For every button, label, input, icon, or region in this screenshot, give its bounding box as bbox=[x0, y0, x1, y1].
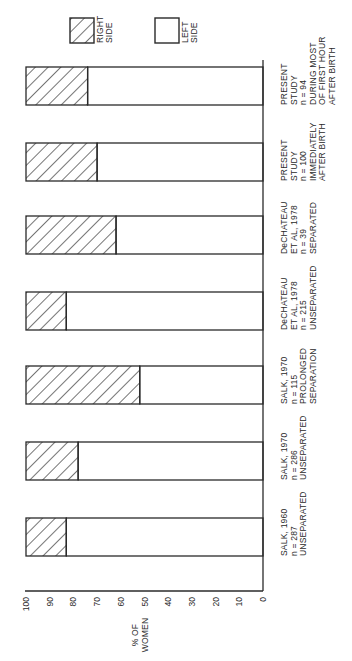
tick-label: 80 bbox=[68, 597, 78, 607]
category-label: SALK, 1960n = 287UNSEPARATED bbox=[279, 491, 308, 556]
bar bbox=[26, 67, 263, 105]
category-label-line: ET AL, 1978 bbox=[289, 281, 299, 330]
legend: RIGHTSIDELEFTSIDE bbox=[70, 16, 199, 43]
tick-label: 40 bbox=[163, 597, 173, 607]
bars bbox=[26, 67, 263, 556]
bar bbox=[26, 292, 263, 330]
axis-title: % OFWOMEN bbox=[130, 618, 150, 653]
bar-segment-left-side bbox=[140, 366, 263, 404]
category-label: DeCHATEAUET AL, 1978n = 215UNSEPARATED bbox=[279, 265, 318, 330]
category-label-line: OF FIRST HOUR bbox=[317, 36, 327, 105]
axis-title-line: WOMEN bbox=[140, 618, 150, 653]
category-label-line: AFTER BIRTH bbox=[317, 123, 327, 181]
legend-swatch bbox=[155, 18, 179, 43]
tick-label: 90 bbox=[45, 597, 55, 607]
bar-segment-right-side bbox=[26, 67, 88, 105]
bar-segment-left-side bbox=[66, 292, 263, 330]
category-label-line: SEPARATION bbox=[308, 348, 318, 404]
tick-label: 60 bbox=[116, 597, 126, 607]
category-label-line: PRESENT bbox=[279, 139, 289, 181]
category-label-line: SALK, 1960 bbox=[279, 509, 289, 556]
tick-label: 10 bbox=[234, 597, 244, 607]
chart-container: RIGHTSIDELEFTSIDE 0102030405060708090100… bbox=[0, 0, 352, 661]
category-label-line: UNSEPARATED bbox=[298, 415, 308, 480]
category-label-line: STUDY bbox=[289, 75, 299, 105]
category-label-line: ET AL, 1978 bbox=[289, 205, 299, 254]
category-label-line: SALK, 1970 bbox=[279, 357, 289, 404]
tick-label: 100 bbox=[21, 597, 31, 611]
category-label-line: n = 39 bbox=[298, 229, 308, 254]
category-label-line: IMMEDIATELY bbox=[308, 122, 318, 181]
category-label-line: n = 287 bbox=[289, 526, 299, 556]
bar-segment-left-side bbox=[116, 216, 263, 254]
category-label: DeCHATEAUET AL, 1978n = 39SEPARATED bbox=[279, 201, 318, 254]
category-label: PRESENTSTUDYn = 100IMMEDIATELYAFTER BIRT… bbox=[279, 122, 327, 181]
bar-segment-left-side bbox=[78, 442, 263, 480]
tick-label: 20 bbox=[211, 597, 221, 607]
category-label-line: n = 215 bbox=[298, 300, 308, 330]
bar-chart: RIGHTSIDELEFTSIDE 0102030405060708090100… bbox=[0, 0, 352, 661]
category-label: SALK, 1970n = 115PROLONGEDSEPARATION bbox=[279, 348, 318, 404]
bar-segment-right-side bbox=[26, 442, 78, 480]
category-label-line: n = 286 bbox=[289, 450, 299, 480]
category-label-line: SEPARATED bbox=[308, 202, 318, 254]
category-label-line: DURING MOST bbox=[308, 42, 318, 105]
tick-label: 70 bbox=[92, 597, 102, 607]
bar-segment-right-side bbox=[26, 518, 66, 556]
category-label-line: n = 100 bbox=[298, 151, 308, 181]
category-label: PRESENTSTUDYn = 94DURING MOSTOF FIRST HO… bbox=[279, 36, 337, 105]
bar-segment-left-side bbox=[97, 143, 263, 181]
bar bbox=[26, 366, 263, 404]
category-label-line: UNSEPARATED bbox=[298, 491, 308, 556]
category-labels: SALK, 1960n = 287UNSEPARATEDSALK, 1970n … bbox=[279, 36, 337, 556]
tick-label: 30 bbox=[187, 597, 197, 607]
bar-segment-right-side bbox=[26, 292, 66, 330]
category-label-line: DeCHATEAU bbox=[279, 277, 289, 330]
bar-segment-left-side bbox=[88, 67, 263, 105]
axis-title-line: % OF bbox=[130, 624, 140, 647]
category-label-line: PRESENT bbox=[279, 63, 289, 105]
bar-segment-left-side bbox=[66, 518, 263, 556]
legend-item-right-side: RIGHTSIDE bbox=[70, 16, 114, 43]
category-label-line: STUDY bbox=[289, 151, 299, 181]
tick-label: 0 bbox=[258, 597, 268, 602]
category-label-line: UNSEPARATED bbox=[308, 265, 318, 330]
bar-segment-right-side bbox=[26, 366, 140, 404]
bar-segment-right-side bbox=[26, 143, 97, 181]
category-label-line: n = 94 bbox=[298, 80, 308, 105]
category-label-line: SALK, 1970 bbox=[279, 433, 289, 480]
category-label: SALK, 1970n = 286UNSEPARATED bbox=[279, 415, 308, 480]
tick-label: 50 bbox=[140, 597, 150, 607]
bar bbox=[26, 518, 263, 556]
legend-label: SIDE bbox=[189, 22, 199, 43]
legend-item-left-side: LEFTSIDE bbox=[155, 18, 199, 43]
category-label-line: AFTER BIRTH bbox=[327, 47, 337, 105]
bar-segment-right-side bbox=[26, 216, 116, 254]
bar bbox=[26, 216, 263, 254]
category-label-line: PROLONGED bbox=[298, 348, 308, 404]
category-label-line: n = 115 bbox=[289, 375, 299, 404]
bar bbox=[26, 442, 263, 480]
legend-label: SIDE bbox=[104, 22, 114, 43]
bar bbox=[26, 143, 263, 181]
legend-swatch bbox=[70, 18, 94, 43]
category-label-line: DeCHATEAU bbox=[279, 201, 289, 254]
